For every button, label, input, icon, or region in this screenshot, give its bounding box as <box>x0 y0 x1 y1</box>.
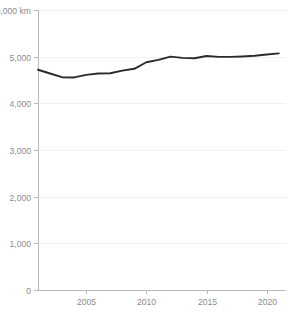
chart-title-cropped <box>36 0 246 2</box>
x-tick-label: 2020 <box>258 297 277 307</box>
y-tick-label: 5,000 <box>9 53 31 63</box>
x-tick-label: 2015 <box>198 297 217 307</box>
gridlines-group <box>38 11 286 291</box>
y-tick-label: 6,000 km <box>0 6 31 16</box>
y-tick-label: 2,000 <box>9 193 31 203</box>
chart-plot-area: 01,0002,0003,0004,0005,0006,000 km 20052… <box>0 0 289 313</box>
y-tick-label: 4,000 <box>9 99 31 109</box>
y-tick-label: 0 <box>26 286 31 296</box>
y-tick-label: 3,000 <box>9 146 31 156</box>
x-axis-ticks-group: 2005201020152020 <box>77 290 277 307</box>
y-tick-label: 1,000 <box>9 239 31 249</box>
x-tick-label: 2010 <box>137 297 156 307</box>
y-axis-ticks-group: 01,0002,0003,0004,0005,0006,000 km <box>0 6 38 296</box>
line-chart: 01,0002,0003,0004,0005,0006,000 km 20052… <box>0 0 289 313</box>
x-tick-label: 2005 <box>77 297 96 307</box>
